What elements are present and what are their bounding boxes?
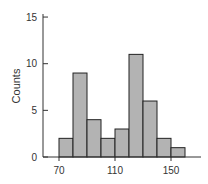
histogram-bar [59, 138, 73, 157]
y-axis-title: Counts [10, 68, 22, 103]
histogram-bar [115, 129, 129, 157]
histogram-bar [171, 148, 185, 157]
histogram-bar [101, 138, 115, 157]
x-axis-ticks: 70110150 [53, 157, 179, 176]
histogram-bar [73, 73, 87, 157]
y-tick-label: 5 [31, 105, 37, 116]
y-tick-label: 0 [31, 152, 37, 163]
y-tick-label: 15 [26, 12, 38, 23]
y-axis-ticks: 051015 [26, 12, 48, 163]
histogram-bar [129, 54, 143, 157]
x-tick-label: 70 [53, 165, 65, 176]
x-tick-label: 110 [107, 165, 123, 176]
histogram-bar [87, 120, 101, 157]
y-tick-label: 10 [26, 58, 38, 69]
histogram-bar [143, 101, 157, 157]
histogram-bars [59, 54, 185, 157]
x-tick-label: 150 [163, 165, 180, 176]
histogram-chart: 051015 70110150 Counts [0, 0, 208, 184]
histogram-bar [157, 138, 171, 157]
